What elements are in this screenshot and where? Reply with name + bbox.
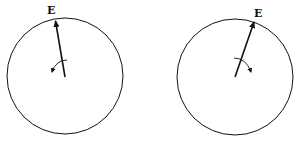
right-diagram: E <box>177 7 293 135</box>
right-e-label: E <box>254 7 262 20</box>
left-diagram: E <box>7 4 123 134</box>
left-rotation-arrow-ccw-icon <box>52 60 67 72</box>
right-e-vector-arrow <box>235 22 254 77</box>
right-rotation-arrow-cw-icon <box>234 58 251 72</box>
polarization-diagram: E E <box>0 0 300 141</box>
left-e-vector-arrow <box>56 21 66 77</box>
left-e-label: E <box>47 4 55 17</box>
